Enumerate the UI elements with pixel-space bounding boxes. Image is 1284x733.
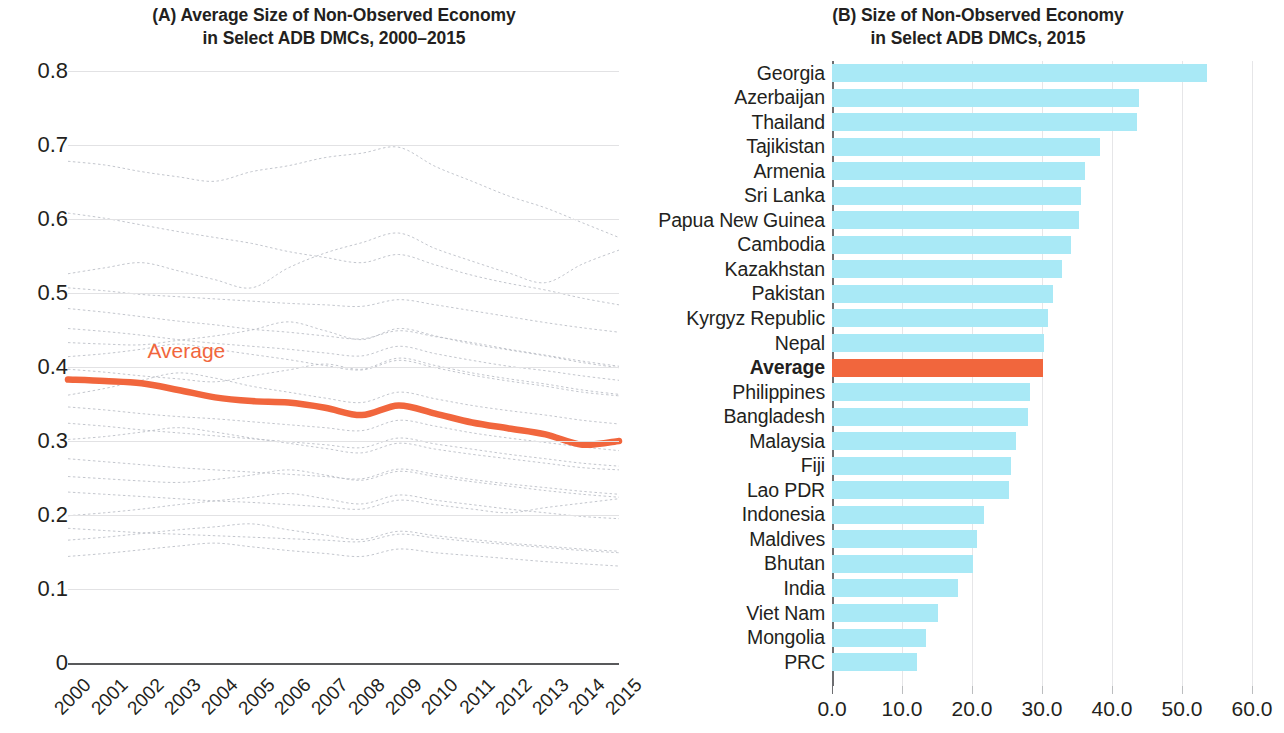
panel-b-bar-track <box>832 233 1284 258</box>
panel-b-bar <box>832 408 1028 426</box>
panel-b-category-label: Pakistan <box>642 284 832 304</box>
panel-b-category-label: Philippines <box>642 383 832 403</box>
panel-a-title: (A) Average Size of Non-Observed Economy… <box>0 4 642 50</box>
panel-b-bar-track <box>832 282 1284 307</box>
panel-b-category-label: Tajikistan <box>642 137 832 157</box>
panel-b-bar-track <box>832 86 1284 111</box>
panel-a-x-axis-labels: 2000200120022003200420052006200720082009… <box>68 668 619 733</box>
panel-b-bar-track <box>832 331 1284 356</box>
panel-b-x-tick <box>1042 686 1043 694</box>
panel-b-bar <box>832 579 958 597</box>
panel-b-bar <box>832 211 1079 229</box>
panel-b-country-row: Kazakhstan <box>642 257 1284 282</box>
panel-b-country-row: Cambodia <box>642 233 1284 258</box>
panel-b-bar <box>832 604 938 622</box>
panel-a-average-annotation: Average <box>147 339 225 363</box>
panel-b-bar <box>832 162 1085 180</box>
panel-b-bar-track <box>832 61 1284 86</box>
panel-b-bar <box>832 359 1043 377</box>
panel-b-category-label: Indonesia <box>642 505 832 525</box>
panel-b-bar-track <box>832 257 1284 282</box>
panel-a-gridline <box>68 145 619 146</box>
panel-b-x-tick <box>1182 686 1183 694</box>
panel-a-y-tick-label: 0.6 <box>6 206 68 232</box>
panel-a-gridline <box>68 589 619 590</box>
panel-b-category-label: Nepal <box>642 334 832 354</box>
figure: (A) Average Size of Non-Observed Economy… <box>0 0 1284 733</box>
panel-b-x-tick-label: 10.0 <box>882 697 923 721</box>
panel-b-category-label: Sri Lanka <box>642 186 832 206</box>
panel-b-bar-track <box>832 405 1284 430</box>
panel-b-category-label: Kazakhstan <box>642 260 832 280</box>
panel-b-category-label: Lao PDR <box>642 481 832 501</box>
panel-b-category-label: Maldives <box>642 530 832 550</box>
panel-b-country-row: Azerbaijan <box>642 86 1284 111</box>
panel-b-bar <box>832 432 1016 450</box>
panel-a-gridline <box>68 71 619 72</box>
panel-b-x-tick-label: 50.0 <box>1162 697 1203 721</box>
panel-b-category-label: PRC <box>642 653 832 673</box>
panel-a-y-tick-label: 0.7 <box>6 132 68 158</box>
panel-b-bar <box>832 260 1062 278</box>
panel-b-x-tick-label: 0.0 <box>817 697 846 721</box>
panel-a-background-series-line <box>68 147 619 238</box>
panel-b-country-row: Nepal <box>642 331 1284 356</box>
panel-b-bar-track <box>832 208 1284 233</box>
panel-b-bar <box>832 138 1100 156</box>
panel-a-y-axis-labels: 00.10.20.30.40.50.60.70.8 <box>0 71 68 663</box>
panel-b-bar-track <box>832 503 1284 528</box>
panel-b-plot-area: GeorgiaAzerbaijanThailandTajikistanArmen… <box>642 0 1284 733</box>
panel-b-bar-track <box>832 306 1284 331</box>
panel-b-category-label: Bangladesh <box>642 407 832 427</box>
panel-a-background-series-line <box>68 528 619 552</box>
panel-b-x-tick <box>902 686 903 694</box>
panel-b-bar <box>832 285 1053 303</box>
panel-b-x-tick-label: 30.0 <box>1022 697 1063 721</box>
panel-b-country-row: Pakistan <box>642 282 1284 307</box>
panel-b-bar <box>832 457 1011 475</box>
panel-b-bar <box>832 481 1009 499</box>
panel-b-bar-track <box>832 527 1284 552</box>
panel-b-bar-track <box>832 552 1284 577</box>
panel-b-category-label: Average <box>642 358 832 378</box>
panel-b-country-row: Thailand <box>642 110 1284 135</box>
panel-a-background-series-line <box>68 233 619 288</box>
panel-b-country-row: Armenia <box>642 159 1284 184</box>
panel-b-x-tick <box>1252 686 1253 694</box>
panel-b-category-label: Armenia <box>642 162 832 182</box>
panel-a-y-tick-label: 0.3 <box>6 428 68 454</box>
panel-b-country-row: Georgia <box>642 61 1284 86</box>
panel-b-category-label: Azerbaijan <box>642 88 832 108</box>
panel-b-category-label: Kyrgyz Republic <box>642 309 832 329</box>
panel-b-category-label: Fiji <box>642 456 832 476</box>
panel-b-bar-track <box>832 601 1284 626</box>
panel-b-country-row: Lao PDR <box>642 478 1284 503</box>
panel-b-bar <box>832 334 1044 352</box>
panel-b-bar <box>832 653 917 671</box>
panel-b-bar <box>832 506 984 524</box>
panel-b-bar <box>832 187 1081 205</box>
panel-b-country-row: Mongolia <box>642 626 1284 651</box>
panel-b-bar-track <box>832 650 1284 675</box>
panel-b-country-row: Bhutan <box>642 552 1284 577</box>
panel-a-gridline <box>68 441 619 442</box>
panel-a-y-tick-label: 0 <box>6 650 68 676</box>
panel-b-category-label: Cambodia <box>642 235 832 255</box>
panel-b-category-label: Malaysia <box>642 432 832 452</box>
panel-b-bar <box>832 64 1207 82</box>
panel-a-x-axis-line <box>68 663 619 665</box>
panel-b-bar <box>832 530 977 548</box>
panel-a-gridline <box>68 219 619 220</box>
panel-b-bar <box>832 555 973 573</box>
panel-b-bar <box>832 89 1139 107</box>
panel-b-bar <box>832 383 1030 401</box>
panel-b-bar-track <box>832 356 1284 381</box>
panel-b-country-row: PRC <box>642 650 1284 675</box>
panel-b-category-label: Thailand <box>642 113 832 133</box>
panel-a-y-tick-label: 0.8 <box>6 58 68 84</box>
panel-a-background-series-line <box>68 459 619 495</box>
panel-b-bar <box>832 309 1048 327</box>
panel-b-country-row: Viet Nam <box>642 601 1284 626</box>
panel-b-country-row: Fiji <box>642 454 1284 479</box>
panel-b-bar-track <box>832 429 1284 454</box>
